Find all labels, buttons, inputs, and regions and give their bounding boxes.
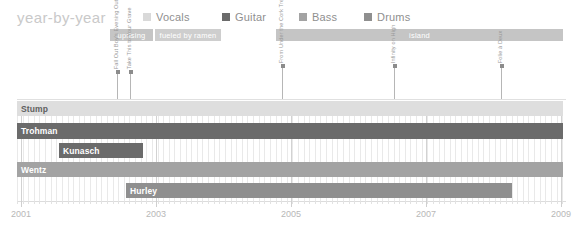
axis-tick-minor xyxy=(315,201,316,204)
album-stem xyxy=(130,72,131,100)
page-title: year-by-year xyxy=(17,9,106,26)
axis-tick-minor xyxy=(287,201,288,204)
bar-wentz[interactable]: Wentz xyxy=(17,162,563,177)
axis-tick-minor xyxy=(56,201,57,204)
album-tip-icon xyxy=(281,64,285,68)
axis-tick-minor xyxy=(158,201,159,204)
axis-tick-minor xyxy=(79,201,80,204)
axis-tick-minor xyxy=(377,201,378,204)
album-marker: From Under the Cork Tree xyxy=(282,66,283,100)
chart-top-rule xyxy=(17,99,566,100)
axis-tick-minor xyxy=(455,201,456,204)
legend-item-vocals: Vocals xyxy=(143,10,190,24)
album-tip-icon xyxy=(129,70,133,74)
axis-tick-minor xyxy=(236,201,237,204)
album-stem xyxy=(282,66,283,100)
label-band-island: island xyxy=(276,29,563,41)
axis-tick-minor xyxy=(354,201,355,204)
album-marker: Fall Out Boy's Evening Out with Your Gir… xyxy=(117,72,118,100)
timeline-row: Kunasch xyxy=(17,143,566,158)
album-stem xyxy=(117,72,118,100)
axis-tick-minor xyxy=(152,201,153,204)
bar-stump[interactable]: Stump xyxy=(17,101,563,116)
axis-tick-minor xyxy=(281,201,282,204)
member-timeline-chart: Stump Trohman Kunasch Wentz Hurley xyxy=(17,101,566,201)
axis-tick-minor xyxy=(28,201,29,204)
bar-kunasch[interactable]: Kunasch xyxy=(59,143,143,158)
axis-tick-minor xyxy=(259,201,260,204)
axis-tick-minor xyxy=(478,201,479,204)
axis-tick-minor xyxy=(163,201,164,204)
axis-year-2003: 2003 xyxy=(146,209,166,219)
axis-tick-minor xyxy=(500,201,501,204)
axis-tick-minor xyxy=(382,201,383,204)
album-stem xyxy=(394,66,395,100)
bar-trohman[interactable]: Trohman xyxy=(17,123,563,139)
axis-tick-minor xyxy=(264,201,265,204)
axis-tick-minor xyxy=(410,201,411,204)
axis-tick-minor xyxy=(439,201,440,204)
axis-tick-minor xyxy=(225,201,226,204)
axis-tick-minor xyxy=(124,201,125,204)
axis-tick-minor xyxy=(84,201,85,204)
album-title: Take This to Your Grave xyxy=(126,17,132,69)
year-by-year-timeline: year-by-year Vocals Guitar Bass Drums up… xyxy=(0,0,583,229)
axis-tick-minor xyxy=(242,201,243,204)
legend-label-bass: Bass xyxy=(312,11,337,23)
bar-hurley[interactable]: Hurley xyxy=(126,183,512,198)
axis-tick-minor xyxy=(180,201,181,204)
label-band-fueled-by-ramen: fueled by ramen xyxy=(155,29,221,41)
axis-tick-minor xyxy=(461,201,462,204)
axis-tick-minor xyxy=(332,201,333,204)
bar-label-kunasch: Kunasch xyxy=(63,146,100,156)
axis-tick-minor xyxy=(422,201,423,204)
axis-tick-minor xyxy=(320,201,321,204)
axis-year-2007: 2007 xyxy=(416,209,436,219)
axis-tick-minor xyxy=(545,201,546,204)
axis-tick-minor xyxy=(349,201,350,204)
x-axis: 2001 2003 2005 2007 2009 xyxy=(17,201,566,227)
axis-tick-year xyxy=(561,201,562,207)
axis-tick-minor xyxy=(450,201,451,204)
axis-tick-minor xyxy=(51,201,52,204)
axis-tick-minor xyxy=(231,201,232,204)
axis-tick-minor xyxy=(467,201,468,204)
album-tip-icon xyxy=(500,64,504,68)
axis-tick-minor xyxy=(343,201,344,204)
timeline-row: Wentz xyxy=(17,162,566,177)
axis-tick-minor xyxy=(506,201,507,204)
axis-tick-minor xyxy=(186,201,187,204)
axis-tick-minor xyxy=(394,201,395,204)
axis-tick-minor xyxy=(540,201,541,204)
timeline-row: Stump xyxy=(17,101,566,116)
axis-tick-minor xyxy=(90,201,91,204)
legend-item-bass: Bass xyxy=(299,10,337,24)
axis-tick-minor xyxy=(17,201,18,204)
record-label-bands: uprising fueled by ramen island xyxy=(0,29,583,41)
axis-year-2009: 2009 xyxy=(551,209,571,219)
axis-tick-minor xyxy=(562,201,563,204)
axis-tick-minor xyxy=(292,201,293,204)
axis-tick-minor xyxy=(197,201,198,204)
album-marker: Folie à Deux xyxy=(501,66,502,100)
axis-tick-minor xyxy=(96,201,97,204)
axis-tick-minor xyxy=(62,201,63,204)
album-marker: Take This to Your Grave xyxy=(130,72,131,100)
legend-swatch-bass xyxy=(299,13,307,21)
album-tip-icon xyxy=(393,64,397,68)
axis-tick-minor xyxy=(517,201,518,204)
timeline-row: Hurley xyxy=(17,183,566,198)
album-title: Fall Out Boy's Evening Out with Your Gir… xyxy=(113,17,119,69)
axis-tick-minor xyxy=(214,201,215,204)
axis-tick-minor xyxy=(495,201,496,204)
axis-tick-minor xyxy=(141,201,142,204)
axis-tick-minor xyxy=(247,201,248,204)
album-marker: Infinity on High xyxy=(394,66,395,100)
axis-tick-minor xyxy=(129,201,130,204)
axis-tick-year xyxy=(426,201,427,207)
axis-tick-minor xyxy=(523,201,524,204)
axis-tick-minor xyxy=(309,201,310,204)
album-tip-icon xyxy=(116,70,120,74)
axis-tick-minor xyxy=(472,201,473,204)
axis-tick-minor xyxy=(405,201,406,204)
